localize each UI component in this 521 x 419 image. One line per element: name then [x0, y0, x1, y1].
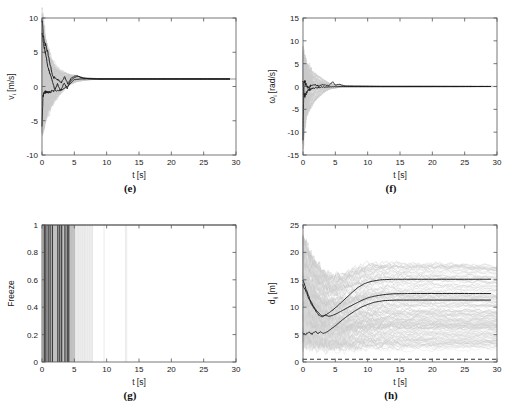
- y-tick-label: -5: [31, 117, 39, 126]
- x-tick-label: 5: [333, 158, 338, 167]
- x-axis-label: t [s]: [393, 377, 407, 387]
- x-tick-label: 20: [167, 365, 176, 374]
- trajectory-dark-trajectory-3: [42, 79, 230, 126]
- y-tick-label: 15: [290, 14, 299, 23]
- panel-f-caption: (f): [261, 182, 521, 194]
- y-tick-label: 0.2: [27, 331, 39, 340]
- y-tick-label: 1: [34, 221, 39, 230]
- y-tick-label: 10: [290, 303, 299, 312]
- trajectory-dark-trajectory-2: [42, 33, 230, 90]
- x-tick-label: 5: [72, 158, 77, 167]
- x-tick-label: 25: [460, 365, 469, 374]
- panel-h-plot: 0510152025302520151050t [s]dij [m]: [261, 207, 521, 393]
- x-tick-label: 0: [40, 365, 45, 374]
- y-tick-label: 10: [29, 14, 38, 23]
- y-axis-label: ωi [rad/s]: [267, 70, 278, 104]
- panel-f: 051015202530151050-5-10-15t [s]ωi [rad/s…: [261, 0, 521, 209]
- trajectory-dark-trajectory-1: [303, 81, 491, 140]
- svg-text:ωi [rad/s]: ωi [rad/s]: [267, 70, 278, 104]
- y-tick-label: 0.8: [27, 248, 39, 257]
- ensemble-cloud: [303, 235, 497, 355]
- y-axis-label: Freeze: [6, 280, 16, 307]
- x-tick-label: 30: [493, 158, 502, 167]
- y-tick-label: 25: [290, 221, 299, 230]
- panel-h: 0510152025302520151050t [s]dij [m] (h): [261, 207, 521, 416]
- ensemble-cloud: [303, 46, 497, 149]
- panel-g: 05101520253010.80.60.40.20t [s]Freeze (g…: [0, 207, 260, 416]
- x-tick-label: 20: [428, 365, 437, 374]
- panel-e-caption: (e): [0, 182, 260, 194]
- x-tick-label: 30: [493, 365, 502, 374]
- x-axis-label: t [s]: [393, 170, 407, 180]
- svg-text:Freeze: Freeze: [6, 280, 16, 307]
- y-tick-label: 5: [295, 60, 300, 69]
- y-tick-label: 5: [34, 48, 39, 57]
- y-tick-label: 10: [290, 37, 299, 46]
- y-tick-label: -10: [287, 128, 299, 137]
- x-tick-label: 15: [396, 158, 405, 167]
- x-tick-label: 30: [232, 365, 241, 374]
- y-tick-label: 0: [295, 358, 300, 367]
- x-tick-label: 10: [363, 365, 372, 374]
- x-tick-label: 0: [40, 158, 45, 167]
- x-tick-label: 15: [135, 158, 144, 167]
- x-tick-label: 15: [396, 365, 405, 374]
- x-tick-label: 0: [301, 158, 306, 167]
- x-tick-label: 10: [102, 158, 111, 167]
- y-axis-label: vi [m/s]: [6, 73, 17, 99]
- x-tick-label: 10: [102, 365, 111, 374]
- panel-e-plot: 0510152025301050-5-10t [s]vi [m/s]: [0, 0, 260, 186]
- y-axis-label: dij [m]: [267, 283, 278, 305]
- panel-f-plot: 051015202530151050-5-10-15t [s]ωi [rad/s…: [261, 0, 521, 186]
- freeze-events: [43, 225, 127, 362]
- x-axis-label: t [s]: [132, 170, 146, 180]
- y-tick-label: -5: [292, 105, 300, 114]
- ensemble-cloud: [42, 7, 236, 136]
- x-tick-label: 5: [333, 365, 338, 374]
- y-tick-label: 0: [34, 83, 39, 92]
- y-tick-label: -10: [26, 151, 38, 160]
- y-tick-label: 0.6: [27, 276, 39, 285]
- x-tick-label: 25: [199, 365, 208, 374]
- x-tick-label: 5: [72, 365, 77, 374]
- x-tick-label: 25: [199, 158, 208, 167]
- y-tick-label: 0: [295, 83, 300, 92]
- y-tick-label: 0: [34, 358, 39, 367]
- svg-text:dij [m]: dij [m]: [267, 283, 278, 305]
- x-tick-label: 20: [167, 158, 176, 167]
- panel-g-plot: 05101520253010.80.60.40.20t [s]Freeze: [0, 207, 260, 393]
- panel-g-caption: (g): [0, 389, 260, 401]
- x-tick-label: 20: [428, 158, 437, 167]
- panel-e: 0510152025301050-5-10t [s]vi [m/s] (e): [0, 0, 260, 209]
- y-tick-label: -15: [287, 151, 299, 160]
- panel-h-caption: (h): [261, 389, 521, 401]
- y-tick-label: 20: [290, 248, 299, 257]
- figure-panel-grid: 0510152025301050-5-10t [s]vi [m/s] (e) 0…: [0, 0, 521, 419]
- y-tick-label: 0.4: [27, 303, 39, 312]
- x-tick-label: 30: [232, 158, 241, 167]
- svg-text:vi [m/s]: vi [m/s]: [6, 73, 17, 99]
- x-tick-label: 25: [460, 158, 469, 167]
- x-tick-label: 15: [135, 365, 144, 374]
- y-tick-label: 15: [290, 276, 299, 285]
- y-tick-label: 5: [295, 331, 300, 340]
- x-tick-label: 0: [301, 365, 306, 374]
- x-axis-label: t [s]: [132, 377, 146, 387]
- x-tick-label: 10: [363, 158, 372, 167]
